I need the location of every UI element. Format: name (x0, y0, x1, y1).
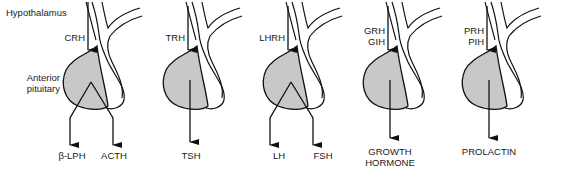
hypothalamus-label: Hypothalamus (6, 7, 67, 18)
output-beta-lph: β-LPH (58, 150, 85, 161)
anterior-pituitary-label-line2: pituitary (8, 83, 60, 94)
releasing-hormone-grh: GRH (350, 25, 385, 36)
unit-trh (163, 2, 242, 142)
releasing-hormone-gih: GIH (350, 36, 385, 47)
output-growth-hormone-line2: HORMONE (365, 157, 415, 168)
releasing-hormone-lhrh: LHRH (250, 32, 285, 43)
output-fsh: FSH (314, 150, 333, 161)
unit-grh-gih (363, 2, 442, 138)
releasing-hormone-crh: CRH (50, 32, 85, 43)
output-prolactin: PROLACTIN (462, 146, 516, 157)
unit-lhrh (263, 2, 342, 145)
releasing-hormone-pih: PIH (449, 36, 484, 47)
output-growth-hormone-line1: GROWTH (368, 146, 411, 157)
pituitary-diagram (0, 0, 579, 169)
output-tsh: TSH (182, 150, 201, 161)
releasing-hormone-trh: TRH (150, 32, 185, 43)
anterior-pituitary-label-line1: Anterior (8, 72, 60, 83)
output-lh: LH (273, 150, 285, 161)
output-acth: ACTH (101, 150, 127, 161)
unit-crh (63, 2, 142, 145)
releasing-hormone-prh: PRH (449, 25, 484, 36)
unit-prh-pih (462, 2, 541, 138)
